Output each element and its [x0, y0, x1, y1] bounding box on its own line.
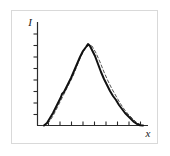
fitted-curve-dashed — [43, 45, 143, 126]
y-axis-label: I — [27, 16, 33, 28]
x-axis-label: x — [145, 127, 151, 139]
measured-curve-solid — [44, 44, 143, 126]
plot-canvas: I x — [0, 0, 170, 156]
figure-container: I x — [0, 0, 170, 156]
